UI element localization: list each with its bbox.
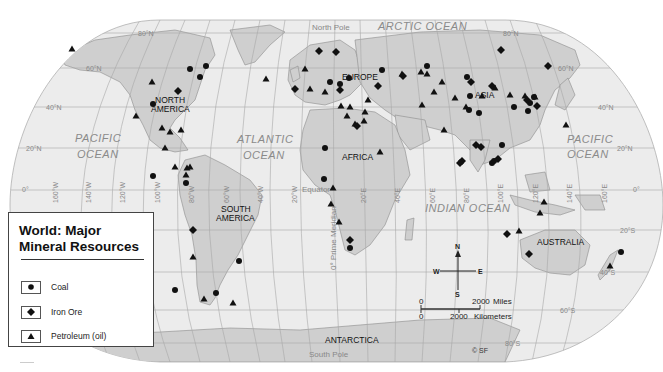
coal-marker-icon [525,108,531,114]
coal-marker-icon [183,180,189,186]
scale-km-zero: 0 [419,312,424,321]
scale-miles-value: 2000 [472,297,490,306]
legend-label-iron-ore: Iron Ore [51,307,82,317]
svg-text:60°E: 60°E [429,187,436,203]
coal-symbol-icon [21,281,41,294]
antarctica-label: ANTARCTICA [325,335,379,345]
scale-km-unit: Kilometers [474,312,512,321]
south-america-label-2: AMERICA [216,213,255,223]
coal-marker-icon [511,104,517,110]
svg-text:80°N: 80°N [138,30,154,37]
south-pole-label: South Pole [309,350,349,359]
svg-text:100°W: 100°W [154,182,161,203]
australia-label: AUSTRALIA [537,237,585,247]
svg-text:120°W: 120°W [119,182,126,203]
coal-marker-icon [197,74,203,80]
coal-marker-icon [187,66,193,72]
atlantic-ocean-label-2: OCEAN [243,149,285,161]
svg-text:120°E: 120°E [532,184,539,203]
petroleum-marker-icon [69,46,76,52]
compass-n: N [455,243,460,250]
legend-divider [21,259,144,260]
svg-text:80°N: 80°N [503,30,519,37]
svg-text:20°W: 20°W [291,185,298,203]
coal-marker-icon [499,142,505,148]
svg-text:0°: 0° [633,186,640,193]
legend-title-line1: World: Major [19,223,139,239]
svg-text:40°E: 40°E [394,187,401,203]
svg-text:0°: 0° [22,186,29,193]
svg-text:160°W: 160°W [52,182,59,203]
coal-marker-icon [150,173,156,179]
svg-text:20°N: 20°N [617,145,633,152]
svg-text:140°W: 140°W [85,182,92,203]
legend-title-line2: Mineral Resources [19,239,139,255]
svg-text:40°S: 40°S [600,269,616,276]
coal-marker-icon [618,249,624,255]
svg-text:80°W: 80°W [188,185,195,203]
legend: World: Major Mineral Resources Coal Iron… [8,212,154,347]
svg-text:20°N: 20°N [26,145,42,152]
arctic-ocean-label: ARCTIC OCEAN [377,20,467,32]
compass-s: S [455,291,460,298]
coal-marker-icon [236,258,242,264]
coal-marker-icon [322,145,328,151]
legend-item-iron-ore: Iron Ore [21,304,82,320]
coal-marker-icon [327,79,333,85]
compass-e: E [478,268,483,275]
legend-label-petroleum: Petroleum (oil) [51,331,106,341]
coal-marker-icon [150,101,156,107]
svg-text:140°E: 140°E [566,184,573,203]
coal-marker-icon [347,245,353,251]
svg-text:80°E: 80°E [463,187,470,203]
africa-label: AFRICA [342,152,374,162]
svg-text:160°E: 160°E [601,184,608,203]
svg-text:100°E: 100°E [497,184,504,203]
svg-text:80°S: 80°S [505,340,521,347]
prime-meridian-label: 0° Prime Meridian [329,206,338,270]
compass-w: W [433,268,440,275]
legend-label-coal: Coal [51,282,68,292]
page-number-mark [20,362,34,366]
north-pole-label: North Pole [312,23,350,32]
coal-marker-icon [464,74,470,80]
scale-miles-unit: Miles [493,297,512,306]
coal-marker-icon [424,63,430,69]
coal-marker-icon [467,93,473,99]
svg-text:60°N: 60°N [558,65,574,72]
coal-marker-icon [379,67,385,73]
coal-marker-icon [213,290,219,296]
pacific-ocean-east-label-2: OCEAN [567,148,609,160]
coal-marker-icon [172,287,178,293]
coal-marker-icon [346,75,352,81]
legend-item-coal: Coal [21,279,68,295]
svg-text:60°N: 60°N [86,65,102,72]
legend-title: World: Major Mineral Resources [19,223,139,255]
coal-marker-icon [321,176,327,182]
svg-text:60°W: 60°W [223,185,230,203]
scale-km-value: 2000 [450,312,468,321]
svg-text:40°N: 40°N [46,104,62,111]
scale-miles-zero: 0 [419,297,424,306]
pacific-ocean-west-label-1: PACIFIC [75,132,121,144]
pacific-ocean-east-label-1: PACIFIC [567,133,613,145]
svg-text:20°E: 20°E [360,187,367,203]
copyright-label: © SF [472,347,488,354]
svg-text:40°W: 40°W [257,185,264,203]
svg-text:20°S: 20°S [620,227,636,234]
svg-text:40°N: 40°N [598,104,614,111]
svg-text:60°S: 60°S [560,307,576,314]
atlantic-ocean-label-1: ATLANTIC [236,133,293,145]
iron-ore-symbol-icon [21,306,41,319]
coal-marker-icon [203,63,209,69]
petroleum-symbol-icon [21,330,41,343]
pacific-ocean-west-label-2: OCEAN [77,148,119,160]
legend-item-petroleum: Petroleum (oil) [21,328,106,344]
equator-label: Equator [302,185,330,194]
coal-marker-icon [476,110,482,116]
north-america-label-2: AMERICA [151,104,190,114]
